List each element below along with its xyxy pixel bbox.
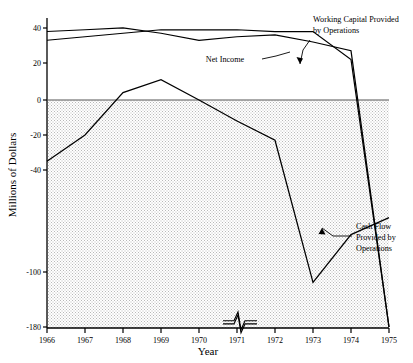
x-axis-title: Year xyxy=(198,345,219,357)
y-axis-title: Millions of Dollars xyxy=(6,133,18,217)
chart-figure: 40200-20-40-100-180 19661967196819691970… xyxy=(0,0,413,363)
y-tick-label: -40 xyxy=(30,166,41,175)
y-tick-label: -180 xyxy=(26,323,41,332)
y-tick-label: -20 xyxy=(30,131,41,140)
cash-flow-label-line3: Operations xyxy=(356,244,392,253)
x-tick-label: 1969 xyxy=(153,336,169,345)
y-tick-label: 20 xyxy=(33,59,41,68)
y-tick-label: 40 xyxy=(33,24,41,33)
working-capital-label-line1: Working Capital Provided xyxy=(313,15,399,24)
cash-flow-label-line2: Provided by xyxy=(356,233,397,242)
x-tick-labels: 1966196719681969197019711972197319741975 xyxy=(39,336,397,345)
net-income-leader-line xyxy=(262,52,290,59)
negative-region-shading xyxy=(47,100,389,328)
net-income-label: Net Income xyxy=(206,55,245,64)
x-tick-label: 1970 xyxy=(191,336,207,345)
x-tick-marks xyxy=(47,328,389,333)
x-tick-label: 1968 xyxy=(115,336,131,345)
line-chart-canvas: 40200-20-40-100-180 19661967196819691970… xyxy=(0,0,413,363)
x-tick-label: 1972 xyxy=(267,336,283,345)
x-tick-label: 1974 xyxy=(343,336,359,345)
working-capital-arrowhead xyxy=(297,57,304,64)
x-tick-label: 1975 xyxy=(381,336,397,345)
cash-flow-label-line1: Cash Flow xyxy=(356,222,391,231)
y-tick-labels: 40200-20-40-100-180 xyxy=(26,24,41,332)
x-tick-label: 1973 xyxy=(305,336,321,345)
y-tick-label: 0 xyxy=(37,96,41,105)
x-tick-label: 1971 xyxy=(229,336,245,345)
x-tick-label: 1967 xyxy=(77,336,93,345)
x-tick-label: 1966 xyxy=(39,336,55,345)
working-capital-label-line2: by Operations xyxy=(313,26,359,35)
y-tick-label: -100 xyxy=(26,268,41,277)
